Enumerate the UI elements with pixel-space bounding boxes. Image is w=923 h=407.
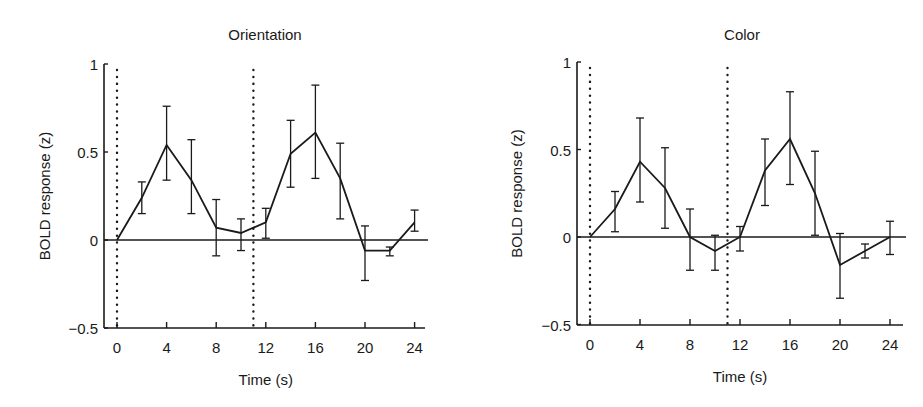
x-tick-label: 16 — [782, 336, 799, 353]
y-axis-label: BOLD response (z) — [36, 132, 53, 260]
y-tick-label: −0.5 — [68, 320, 98, 337]
y-tick-label: −0.5 — [541, 317, 571, 334]
x-tick-label: 12 — [732, 336, 749, 353]
x-tick-label: 24 — [406, 339, 423, 356]
x-tick-label: 20 — [832, 336, 849, 353]
orientation-chart: Orientation−0.500.5104812162024Time (s)B… — [0, 0, 460, 407]
y-tick-label: 1 — [563, 54, 571, 71]
x-tick-label: 24 — [882, 336, 899, 353]
chart-title: Orientation — [228, 26, 301, 43]
chart-title: Color — [724, 26, 760, 43]
x-tick-label: 8 — [212, 339, 220, 356]
orientation-chart-panel: Orientation−0.500.5104812162024Time (s)B… — [0, 0, 460, 407]
y-tick-label: 0.5 — [77, 144, 98, 161]
x-tick-label: 12 — [257, 339, 274, 356]
x-tick-label: 4 — [162, 339, 170, 356]
x-axis-label: Time (s) — [239, 371, 293, 388]
x-tick-label: 4 — [636, 336, 644, 353]
x-tick-label: 0 — [586, 336, 594, 353]
color-chart-panel: Color−0.500.5104812162024Time (s)BOLD re… — [460, 0, 923, 407]
y-axis-label: BOLD response (z) — [508, 129, 525, 257]
y-tick-label: 1 — [90, 56, 98, 73]
x-tick-label: 20 — [357, 339, 374, 356]
y-tick-label: 0.5 — [550, 142, 571, 159]
x-tick-label: 0 — [113, 339, 121, 356]
x-tick-label: 8 — [686, 336, 694, 353]
y-tick-label: 0 — [563, 229, 571, 246]
y-tick-label: 0 — [90, 232, 98, 249]
x-tick-label: 16 — [307, 339, 324, 356]
color-chart: Color−0.500.5104812162024Time (s)BOLD re… — [460, 0, 923, 407]
x-axis-label: Time (s) — [713, 368, 767, 385]
